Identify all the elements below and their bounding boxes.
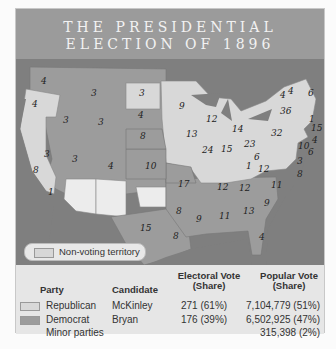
electoral-cell: 176 (39%) <box>181 314 227 325</box>
non-voting-swatch <box>34 248 54 258</box>
title-line-2: ELECTION OF 1896 <box>16 36 324 52</box>
map-svg: 4433933481312143632334102415236112121712… <box>16 59 324 265</box>
candidate-cell: McKinley <box>112 300 153 311</box>
democrat-swatch <box>20 316 40 325</box>
electoral-vote-label: 4 <box>31 99 38 109</box>
electoral-vote-label: 3 <box>72 154 78 164</box>
party-cell: Minor parties <box>46 327 104 338</box>
electoral-vote-label: 11 <box>271 180 282 190</box>
electoral-vote-label: 12 <box>217 182 229 192</box>
electoral-vote-label: 10 <box>298 141 310 151</box>
electoral-vote-label: 23 <box>243 139 256 149</box>
us-electoral-map: 4433933481312143632334102415236112121712… <box>16 59 324 265</box>
popular-cell: 7,104,779 (51%) <box>246 300 320 311</box>
electoral-vote-label: 12 <box>239 183 251 193</box>
electoral-vote-label: 6 <box>254 152 260 162</box>
electoral-vote-label: 4 <box>40 76 47 86</box>
electoral-vote-label: 3 <box>44 149 50 159</box>
electoral-vote-label: 24 <box>201 145 214 155</box>
electoral-vote-label: 36 <box>280 106 292 116</box>
party-cell: Republican <box>46 300 96 311</box>
header-party: Party <box>40 285 64 295</box>
electoral-vote-label: 8 <box>140 131 146 141</box>
electoral-vote-label: 13 <box>186 129 198 139</box>
candidate-cell: Bryan <box>112 314 138 325</box>
electoral-vote-label: 8 <box>173 231 179 241</box>
header-candidate: Candidate <box>112 285 158 295</box>
republican-swatch <box>20 302 40 311</box>
electoral-vote-label: 3 <box>139 88 145 98</box>
electoral-vote-label: 8 <box>297 169 303 179</box>
header-popular-line2: (Share) <box>252 281 326 291</box>
electoral-vote-label: 1 <box>246 161 252 171</box>
electoral-vote-label: 3 <box>91 88 97 98</box>
header-electoral-line2: (Share) <box>174 281 244 291</box>
electoral-cell: 271 (61%) <box>181 300 227 311</box>
results-table: Party Candidate Electoral Vote (Share) P… <box>16 265 324 334</box>
election-figure: THE PRESIDENTIAL ELECTION OF 1896 <box>15 8 325 333</box>
electoral-vote-label: 4 <box>137 110 144 120</box>
electoral-vote-label: 15 <box>140 223 152 233</box>
electoral-vote-label: 15 <box>311 123 323 133</box>
electoral-vote-label: 11 <box>219 211 230 221</box>
electoral-vote-label: 3 <box>98 117 104 127</box>
electoral-vote-label: 9 <box>196 214 202 224</box>
electoral-vote-label: 6 <box>308 88 314 98</box>
popular-cell: 315,398 (2%) <box>260 327 320 338</box>
electoral-vote-label: 15 <box>221 144 233 154</box>
electoral-vote-label: 4 <box>311 135 318 145</box>
electoral-vote-label: 14 <box>232 124 244 134</box>
title-line-1: THE PRESIDENTIAL <box>16 19 324 35</box>
electoral-vote-label: 8 <box>176 206 182 216</box>
electoral-vote-label: 4 <box>287 86 294 96</box>
electoral-vote-label: 1 <box>309 114 315 124</box>
electoral-vote-label: 12 <box>206 114 218 124</box>
electoral-vote-label: 1 <box>48 187 54 197</box>
electoral-vote-label: 4 <box>258 232 265 242</box>
electoral-vote-label: 9 <box>179 101 185 111</box>
electoral-vote-label: 32 <box>271 128 283 138</box>
electoral-vote-label: 4 <box>107 161 114 171</box>
map-legend: Non-voting territory <box>24 243 146 261</box>
header-electoral-vote: Electoral Vote (Share) <box>174 271 244 291</box>
electoral-vote-label: 4 <box>279 90 286 100</box>
electoral-vote-label: 10 <box>145 161 157 171</box>
electoral-vote-label: 13 <box>243 206 255 216</box>
electoral-vote-label: 17 <box>178 179 190 189</box>
title-banner: THE PRESIDENTIAL ELECTION OF 1896 <box>16 9 324 59</box>
popular-cell: 6,502,925 (47%) <box>246 314 320 325</box>
electoral-vote-label: 8 <box>33 165 39 175</box>
party-cell: Democrat <box>46 314 89 325</box>
electoral-vote-label: 3 <box>63 115 69 125</box>
electoral-vote-label: 12 <box>258 164 270 174</box>
electoral-vote-label: 3 <box>297 156 303 166</box>
electoral-vote-label: 9 <box>264 198 270 208</box>
header-popular-vote: Popular Vote (Share) <box>252 271 326 291</box>
legend-label: Non-voting territory <box>59 246 140 257</box>
